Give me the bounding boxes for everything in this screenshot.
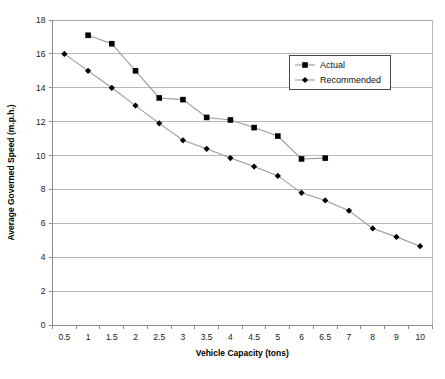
y-tick-label: 4 [41, 252, 46, 262]
x-tick-label: 0.5 [58, 332, 70, 342]
chart-container: 024681012141618 0.511.522.533.544.5566.5… [0, 0, 445, 379]
line-chart: 024681012141618 0.511.522.533.544.5566.5… [0, 0, 445, 379]
x-tick-label: 6.5 [319, 332, 331, 342]
data-point-recommended [417, 243, 423, 249]
legend-label: Actual [320, 60, 345, 70]
x-tick-label: 9 [394, 332, 399, 342]
x-tick-label: 4.5 [248, 332, 260, 342]
x-tick-label: 3 [181, 332, 186, 342]
data-point-actual [299, 156, 305, 162]
y-axis-title: Average Governed Speed (m.p.h.) [6, 104, 16, 240]
data-point-actual [133, 68, 139, 74]
x-tick-label: 1 [86, 332, 91, 342]
x-tick-label: 6 [299, 332, 304, 342]
x-tick-label: 1.5 [106, 332, 118, 342]
y-tick-labels: 024681012141618 [36, 15, 46, 330]
data-point-actual [322, 155, 328, 161]
y-tick-label: 2 [41, 286, 46, 296]
data-point-actual [204, 115, 210, 121]
y-tick-label: 8 [41, 184, 46, 194]
data-point-recommended [393, 234, 399, 240]
x-tick-label: 4 [228, 332, 233, 342]
x-tick-labels: 0.511.522.533.544.5566.578910 [58, 332, 425, 342]
data-point-actual [228, 117, 234, 123]
data-point-actual [251, 125, 257, 131]
legend-marker-square [302, 62, 308, 68]
y-tick-label: 6 [41, 218, 46, 228]
x-tick-label: 10 [415, 332, 425, 342]
x-tick-label: 7 [347, 332, 352, 342]
data-point-recommended [322, 197, 328, 203]
data-point-actual [156, 95, 162, 101]
x-tick-label: 5 [275, 332, 280, 342]
data-point-actual [85, 32, 91, 38]
chart-legend: ActualRecommended [289, 55, 390, 89]
x-tick-label: 8 [370, 332, 375, 342]
legend-label: Recommended [320, 75, 381, 85]
x-axis-title: Vehicle Capacity (tons) [196, 348, 289, 358]
x-tick-label: 2.5 [153, 332, 165, 342]
data-point-actual [180, 97, 186, 103]
data-point-recommended [204, 146, 210, 152]
x-tick-label: 3.5 [201, 332, 213, 342]
data-point-actual [275, 133, 281, 139]
y-tick-label: 10 [36, 151, 46, 161]
y-tick-label: 18 [36, 15, 46, 25]
y-tick-label: 0 [41, 320, 46, 330]
y-tick-label: 12 [36, 117, 46, 127]
y-tick-label: 14 [36, 83, 46, 93]
x-tick-label: 2 [133, 332, 138, 342]
data-point-actual [109, 41, 115, 47]
data-point-recommended [251, 163, 257, 169]
y-tick-label: 16 [36, 49, 46, 59]
axis-titles: Vehicle Capacity (tons)Average Governed … [6, 104, 289, 358]
